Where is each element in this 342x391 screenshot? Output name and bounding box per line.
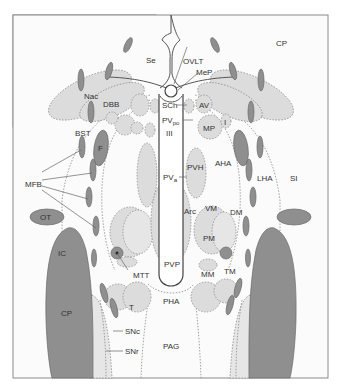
fiber-bundle xyxy=(246,249,251,267)
label-tm: TM xyxy=(224,267,236,276)
fiber-bundle xyxy=(258,69,264,91)
label-f: F xyxy=(98,144,103,153)
fiber-bundle xyxy=(250,187,256,207)
label-ovlt: OVLT xyxy=(183,57,203,66)
dark-dot-right xyxy=(220,247,232,259)
label-i: I xyxy=(224,118,226,127)
label-mm: MM xyxy=(201,270,215,279)
label-bst: BST xyxy=(75,129,91,138)
preoptic-nucleus-left-3 xyxy=(106,112,118,124)
fiber-bundle xyxy=(243,216,249,236)
label-aha: AHA xyxy=(215,159,232,168)
label-si: SI xyxy=(290,174,298,183)
label-nac: Nac xyxy=(84,92,98,101)
optic-tract-right xyxy=(277,209,311,225)
fiber-bundle xyxy=(78,69,84,91)
hypothalamus-diagram: Se OVLT MeP CP Nac DBB SCh AV PVpo III M… xyxy=(0,0,342,391)
mfb-bundle-4 xyxy=(93,216,99,236)
label-t: T xyxy=(129,303,134,312)
label-se: Se xyxy=(146,56,156,65)
mtt-nucleus xyxy=(123,282,151,312)
ovlt-recess xyxy=(165,85,177,97)
label-mtt: MTT xyxy=(133,271,150,280)
mfb-bundle-3 xyxy=(86,187,92,207)
label-pha: PHA xyxy=(163,297,180,306)
dm-nucleus xyxy=(212,212,236,252)
label-dm: DM xyxy=(230,208,243,217)
label-arc: Arc xyxy=(184,207,196,216)
fiber-bundle xyxy=(88,101,94,123)
label-mp: MP xyxy=(203,124,215,133)
label-ot: OT xyxy=(40,213,51,222)
label-pvh: PVH xyxy=(187,163,204,172)
label-av: AV xyxy=(199,101,210,110)
mfb-bundle-1 xyxy=(79,136,85,158)
fiber-bundle xyxy=(257,136,263,158)
label-dbb: DBB xyxy=(103,100,119,109)
vm-left-inner xyxy=(123,210,153,254)
label-pag: PAG xyxy=(163,342,179,351)
cerebral-peduncle-left xyxy=(46,228,93,378)
preoptic-nucleus-left-4 xyxy=(145,123,155,137)
label-snc: SNc xyxy=(125,327,140,336)
fiber-bundle xyxy=(246,159,252,181)
label-lha: LHA xyxy=(257,174,273,183)
preoptic-nucleus-left-1 xyxy=(131,94,149,116)
label-pm: PM xyxy=(203,234,215,243)
label-snr: SNr xyxy=(125,347,139,356)
label-ic: IC xyxy=(58,249,66,258)
mfb-bundle-2 xyxy=(90,159,96,181)
fiber-bundle xyxy=(92,249,97,267)
mp-nucleus-left xyxy=(131,122,143,134)
pvh-nucleus xyxy=(186,148,206,198)
label-mep: MeP xyxy=(196,68,212,77)
label-pvp: PVP xyxy=(164,260,180,269)
label-third-ventricle: III xyxy=(166,129,173,138)
label-cp-top: CP xyxy=(276,39,287,48)
fiber-bundle xyxy=(248,101,254,123)
sch-nucleus-right xyxy=(184,99,194,113)
label-mfb: MFB xyxy=(25,180,42,189)
cerebral-peduncle-right xyxy=(249,228,296,378)
label-cp-bottom: CP xyxy=(61,309,72,318)
label-sch: SCh xyxy=(162,101,178,110)
label-vm: VM xyxy=(205,204,217,213)
